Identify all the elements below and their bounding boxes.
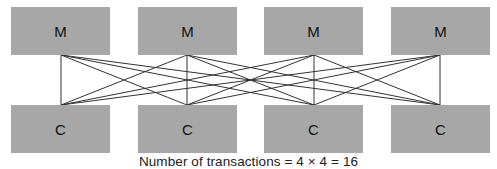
m-box-2: M [138,7,237,55]
c-box-label: C [435,121,446,138]
c-box-label: C [55,121,66,138]
m-box-4: M [391,7,490,55]
m-box-label: M [434,23,447,40]
c-box-label: C [308,121,319,138]
m-box-label: M [181,23,194,40]
c-box-4: C [391,105,490,153]
c-box-3: C [264,105,363,153]
m-box-label: M [54,23,67,40]
m-box-1: M [11,7,110,55]
diagram-caption: Number of transactions = 4 × 4 = 16 [0,154,497,169]
c-box-label: C [182,121,193,138]
c-box-2: C [138,105,237,153]
m-box-label: M [307,23,320,40]
m-box-3: M [264,7,363,55]
c-box-1: C [11,105,110,153]
